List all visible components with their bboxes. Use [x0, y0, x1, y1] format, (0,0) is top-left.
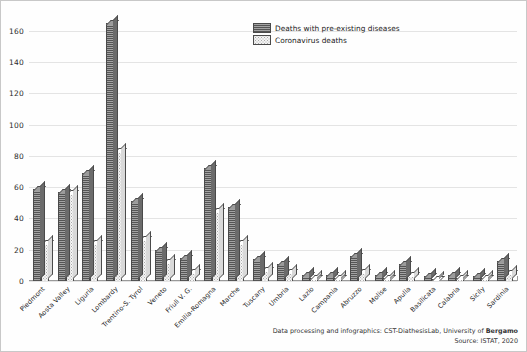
bar-group — [53, 15, 77, 281]
bar — [33, 189, 41, 281]
x-axis-label: Tuscany — [249, 283, 273, 343]
x-axis-label-text: Lazio — [297, 285, 315, 303]
x-axis-label-text: Molise — [368, 285, 389, 306]
bar — [106, 23, 114, 281]
y-axis-tick-label: 140 — [9, 57, 29, 66]
bar — [497, 261, 505, 281]
bar-group — [151, 15, 175, 281]
legend-label-pre-existing: Deaths with pre-existing diseases — [275, 24, 400, 33]
bar-group — [127, 15, 151, 281]
x-axis-label: Trentino-S. Tyrol — [127, 283, 151, 343]
bar — [310, 278, 318, 281]
axis-end-tick — [517, 276, 518, 281]
bar — [432, 279, 440, 281]
bar — [334, 278, 342, 281]
bar-group — [346, 15, 370, 281]
x-axis-label: Veneto — [151, 283, 175, 343]
bar — [180, 258, 188, 281]
x-axis-line — [29, 280, 517, 281]
plot-area: 020406080100120140160 — [29, 15, 517, 281]
bar-group — [200, 15, 224, 281]
bar — [326, 275, 334, 281]
bar — [302, 275, 310, 281]
x-axis-label: Aosta Valley — [53, 283, 77, 343]
bar-group — [493, 15, 517, 281]
bar — [383, 278, 391, 281]
y-axis-tick-label: 80 — [14, 151, 29, 160]
bar-group — [102, 15, 126, 281]
y-axis-tick-label: 120 — [9, 89, 29, 98]
footer-line-1: Data processing and infographics: CST-Di… — [273, 327, 518, 336]
bar-group — [468, 15, 492, 281]
bar-group — [322, 15, 346, 281]
bar-group — [78, 15, 102, 281]
chart-legend: Deaths with pre-existing diseases Corona… — [253, 23, 400, 47]
bar — [456, 278, 464, 281]
bar-group — [420, 15, 444, 281]
legend-label-coronavirus: Coronavirus deaths — [275, 36, 347, 45]
y-axis-tick-label: 20 — [14, 245, 29, 254]
bar-group — [29, 15, 53, 281]
bar — [82, 173, 90, 281]
bar — [277, 264, 285, 281]
bar-group — [273, 15, 297, 281]
y-axis-tick-label: 100 — [9, 120, 29, 129]
footer-credits: Data processing and infographics: CST-Di… — [273, 327, 518, 346]
bar — [253, 259, 261, 281]
bar — [350, 256, 358, 281]
bar — [204, 168, 212, 281]
legend-swatch-coronavirus-icon — [253, 35, 271, 45]
x-axis-label: Marche — [224, 283, 248, 343]
y-axis-tick-label: 0 — [19, 277, 29, 286]
bar — [58, 192, 66, 281]
footer-credit-text: Data processing and infographics: CST-Di… — [273, 327, 486, 335]
bar — [399, 264, 407, 281]
gridline-0: 0 — [29, 281, 517, 282]
bar — [473, 276, 481, 281]
bar-group — [371, 15, 395, 281]
bar — [131, 201, 139, 281]
bar-group — [224, 15, 248, 281]
x-axis-label: Emilia-Romagna — [200, 283, 224, 343]
legend-item-coronavirus: Coronavirus deaths — [253, 35, 400, 45]
x-axis-label-text: Sicily — [468, 285, 486, 303]
bar-group — [395, 15, 419, 281]
y-axis-tick-label: 60 — [14, 183, 29, 192]
bar — [481, 278, 489, 281]
y-axis-tick-label: 40 — [14, 214, 29, 223]
legend-item-pre-existing: Deaths with pre-existing diseases — [253, 23, 400, 33]
x-axis-label: Liguria — [78, 283, 102, 343]
x-axis-label-text: Apulia — [392, 285, 413, 306]
bar-group — [444, 15, 468, 281]
bar-groups — [29, 15, 517, 281]
y-axis-tick-label: 160 — [9, 26, 29, 35]
bar — [228, 207, 236, 281]
footer-line-2: Source: ISTAT, 2020 — [273, 337, 518, 346]
footer-university-name: Bergamo — [486, 327, 518, 335]
chart-figure: 020406080100120140160 PiedmontAosta Vall… — [0, 0, 527, 352]
bar — [375, 275, 383, 281]
bar-group — [249, 15, 273, 281]
bar-group — [297, 15, 321, 281]
bar — [424, 276, 432, 281]
x-axis-label-text: Liguria — [74, 285, 96, 307]
bar — [448, 275, 456, 281]
bar — [155, 250, 163, 281]
legend-swatch-pre-existing-icon — [253, 23, 271, 33]
bar-group — [175, 15, 199, 281]
